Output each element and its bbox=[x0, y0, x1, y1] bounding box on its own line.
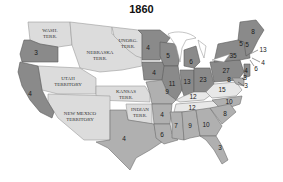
label-new-mexico-2: TERRITORY bbox=[66, 117, 94, 122]
ev-ohio: 23 bbox=[199, 76, 207, 83]
ev-alabama: 9 bbox=[188, 122, 192, 129]
state-florida bbox=[200, 136, 228, 164]
ev-iowa: 4 bbox=[152, 69, 156, 76]
ev-vermont: 5 bbox=[239, 40, 243, 47]
ev-missouri: 9 bbox=[165, 88, 169, 95]
ev-rhode-island: 4 bbox=[261, 59, 265, 66]
label-kansas-2: TERR. bbox=[119, 95, 133, 100]
ev-connecticut: 6 bbox=[254, 65, 258, 72]
ev-maine: 8 bbox=[251, 28, 255, 35]
ev-new-jersey: 4 bbox=[244, 67, 248, 74]
label-nebraska: NEBRASKA bbox=[87, 50, 114, 55]
label-indian: INDIAN bbox=[131, 107, 149, 112]
ev-indiana: 13 bbox=[183, 78, 191, 85]
ev-illinois: 11 bbox=[169, 80, 176, 87]
us-electoral-map-1860: WASH. TERR. NEBRASKA TERR. UNORG. TERR. … bbox=[0, 0, 283, 182]
ev-maryland: 8 bbox=[227, 76, 231, 83]
ev-dc-area: 3 bbox=[244, 82, 248, 89]
ev-pennsylvania: 27 bbox=[222, 67, 230, 74]
ev-arkansas: 4 bbox=[160, 111, 164, 118]
ev-georgia: 10 bbox=[202, 121, 210, 128]
ev-louisiana: 6 bbox=[160, 131, 164, 138]
label-wash-terr: WASH. bbox=[42, 28, 57, 33]
ev-michigan: 6 bbox=[189, 58, 193, 65]
ev-wisconsin: 5 bbox=[166, 52, 170, 59]
ev-california: 4 bbox=[28, 90, 32, 97]
ev-new-hampshire: 5 bbox=[245, 41, 249, 48]
ev-kentucky: 12 bbox=[189, 93, 197, 100]
label-utah-2: TERRITORY bbox=[54, 82, 82, 87]
label-unorg-2: TERR. bbox=[121, 44, 135, 49]
ev-minnesota: 4 bbox=[146, 44, 150, 51]
ev-tennessee: 12 bbox=[188, 104, 196, 111]
label-indian-2: TERR. bbox=[133, 113, 147, 118]
ev-texas: 4 bbox=[122, 135, 126, 142]
ev-delaware: 3 bbox=[243, 74, 247, 81]
ev-oregon: 3 bbox=[34, 49, 38, 56]
ev-north-carolina: 10 bbox=[225, 98, 233, 105]
ev-florida: 3 bbox=[218, 144, 222, 151]
ev-mississippi: 7 bbox=[174, 122, 178, 129]
label-unorg: UNORG. bbox=[118, 38, 137, 43]
ev-new-york: 35 bbox=[229, 52, 237, 59]
label-kansas: KANSAS bbox=[116, 89, 136, 94]
ev-south-carolina: 8 bbox=[223, 110, 227, 117]
label-nebraska-2: TERR. bbox=[93, 56, 107, 61]
label-new-mexico: NEW MEXICO bbox=[64, 111, 97, 116]
ev-massachusetts: 13 bbox=[259, 46, 267, 53]
label-utah: UTAH bbox=[61, 76, 75, 81]
label-wash-terr-2: TERR. bbox=[43, 34, 57, 39]
leader-line bbox=[252, 58, 260, 62]
ev-virginia: 15 bbox=[218, 86, 226, 93]
